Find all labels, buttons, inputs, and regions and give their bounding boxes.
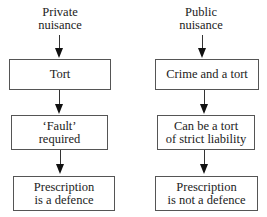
- box-text: Prescription: [176, 181, 236, 194]
- box-text: of strict liability: [166, 133, 247, 146]
- box-text: Crime and a tort: [166, 68, 248, 81]
- arrow-down-icon: [55, 104, 63, 114]
- connector-line: [204, 90, 205, 105]
- arrow-down-icon: [56, 164, 64, 174]
- box-text: Prescription: [34, 181, 94, 194]
- connector-line: [60, 150, 61, 165]
- heading-line: nuisance: [151, 19, 251, 32]
- arrow-down-icon: [55, 48, 63, 58]
- box-crime-and-tort: Crime and a tort: [155, 59, 259, 90]
- box-text: Can be a tort: [174, 120, 238, 133]
- box-text: is a defence: [35, 194, 94, 207]
- box-strict-liability: Can be a tort of strict liability: [157, 115, 255, 150]
- arrow-down-icon: [198, 48, 206, 58]
- box-text: required: [39, 133, 81, 146]
- heading-line: nuisance: [10, 19, 110, 32]
- heading-private-nuisance: Private nuisance: [10, 6, 110, 32]
- arrow-down-icon: [200, 104, 208, 114]
- box-fault-required: ‘Fault’ required: [11, 115, 108, 150]
- box-text: ‘Fault’: [42, 120, 76, 133]
- box-text: is not a defence: [167, 194, 245, 207]
- connector-line: [202, 35, 203, 49]
- heading-public-nuisance: Public nuisance: [151, 6, 251, 32]
- connector-line: [59, 35, 60, 49]
- connector-line: [59, 90, 60, 105]
- arrow-down-icon: [200, 164, 208, 174]
- box-text: Tort: [50, 68, 71, 81]
- box-tort: Tort: [9, 59, 111, 90]
- box-prescription-defence: Prescription is a defence: [13, 176, 115, 211]
- box-prescription-not-defence: Prescription is not a defence: [155, 176, 258, 211]
- connector-line: [204, 150, 205, 165]
